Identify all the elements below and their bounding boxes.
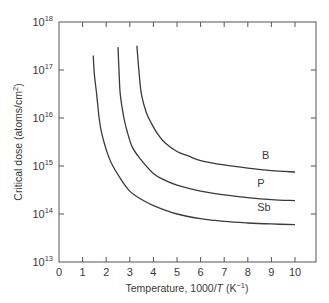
y-tick-label: 1013: [32, 254, 53, 268]
y-tick-label: 1014: [32, 206, 53, 220]
y-tick-label: 1018: [32, 14, 53, 28]
plot-frame: [59, 22, 316, 262]
x-tick-label: 7: [221, 266, 227, 278]
x-tick-label: 2: [103, 266, 109, 278]
y-axis-title: Critical dose (atoms/cm2): [11, 83, 24, 200]
x-tick-label: 10: [289, 266, 301, 278]
x-tick-label: 5: [174, 266, 180, 278]
y-tick-label: 1017: [32, 62, 53, 76]
y-tick-label: 1016: [32, 110, 53, 124]
y-tick-label: 1015: [32, 158, 53, 172]
critical-dose-chart: 012345678910 101310141015101610171018 BP…: [0, 0, 329, 303]
x-tick-label: 6: [198, 266, 204, 278]
curve-b: [137, 46, 295, 172]
x-axis-title: Temperature, 1000/T (K−1): [126, 281, 249, 294]
x-tick-label: 1: [80, 266, 86, 278]
series-label-sb: Sb: [257, 201, 270, 213]
series-label-p: P: [257, 177, 264, 189]
x-tick-label: 9: [268, 266, 274, 278]
x-tick-label: 8: [245, 266, 251, 278]
series-label-b: B: [262, 149, 269, 161]
x-tick-label: 0: [56, 266, 62, 278]
series-labels: BPSb: [257, 149, 270, 213]
dose-curves: [93, 46, 295, 225]
x-tick-label: 3: [127, 266, 133, 278]
curve-p: [118, 47, 295, 201]
y-axis-ticks: 101310141015101610171018: [32, 14, 316, 268]
x-tick-label: 4: [150, 266, 156, 278]
